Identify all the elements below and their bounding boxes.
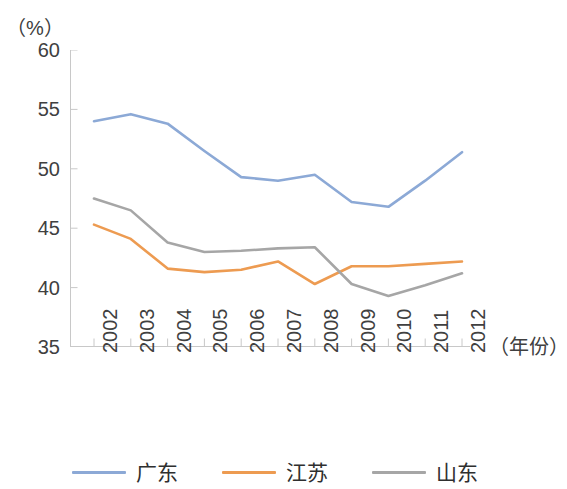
y-axis-tick-label: 40 — [14, 278, 60, 298]
legend-item[interactable]: 广东 — [72, 462, 178, 483]
y-axis-tick-label: 50 — [14, 159, 60, 179]
x-axis-tick-label-text: 2009 — [358, 309, 378, 354]
x-axis-tick-label-text: 2007 — [284, 309, 304, 354]
x-axis-tick-label: 2002 — [84, 353, 104, 433]
x-axis-tick-label: 2006 — [231, 353, 251, 433]
legend-item[interactable]: 江苏 — [222, 462, 328, 483]
x-axis-tick-label: 2008 — [305, 353, 325, 433]
x-axis-tick-label: 2012 — [452, 353, 472, 433]
y-axis-tick-label: 55 — [14, 99, 60, 119]
x-axis-tick-label: 2003 — [121, 353, 141, 433]
series-lines — [94, 114, 462, 296]
x-axis-tick-label-text: 2002 — [100, 309, 120, 354]
x-axis-tick-label-text: 2011 — [431, 310, 451, 353]
x-axis-tick-labels: 2002200320042005200620072008200920102011… — [70, 347, 470, 437]
x-axis-tick-label-text: 2003 — [137, 309, 157, 354]
x-axis-tick-label-text: 2012 — [468, 309, 488, 354]
y-axis-tick-label: 35 — [14, 337, 60, 357]
line-chart: （%） 605550454035 20022003200420052006200… — [0, 0, 567, 489]
x-axis-tick-label-text: 2005 — [210, 309, 230, 354]
legend-label: 山东 — [436, 462, 478, 483]
legend-label: 江苏 — [286, 462, 328, 483]
y-axis-tick-label: 45 — [14, 218, 60, 238]
x-axis-tick-label: 2004 — [158, 353, 178, 433]
plot-area — [70, 50, 470, 347]
legend-line-swatch — [222, 471, 276, 474]
x-axis-tick-label: 2011 — [415, 353, 435, 433]
axis-lines — [70, 50, 470, 347]
x-axis-tick-label: 2009 — [342, 353, 362, 433]
y-axis-ticks — [71, 50, 78, 347]
series-line — [94, 225, 462, 284]
x-axis-title: （年份） — [489, 331, 567, 360]
plot-svg — [70, 50, 470, 347]
x-axis-tick-label: 2007 — [268, 353, 288, 433]
y-axis-tick-labels: 605550454035 — [10, 0, 60, 489]
x-axis-tick-label: 2005 — [194, 353, 214, 433]
x-axis-tick-label-text: 2004 — [174, 309, 194, 354]
legend-line-swatch — [72, 471, 126, 474]
chart-legend: 广东江苏山东 — [0, 455, 567, 489]
y-axis-tick-label: 60 — [14, 40, 60, 60]
x-axis-tick-label-text: 2010 — [394, 309, 414, 354]
series-line — [94, 199, 462, 296]
legend-label: 广东 — [136, 462, 178, 483]
legend-item[interactable]: 山东 — [372, 462, 478, 483]
x-axis-tick-label-text: 2008 — [321, 309, 341, 354]
series-line — [94, 114, 462, 207]
legend-line-swatch — [372, 471, 426, 474]
x-axis-tick-label: 2010 — [378, 353, 398, 433]
x-axis-tick-label-text: 2006 — [247, 309, 267, 354]
